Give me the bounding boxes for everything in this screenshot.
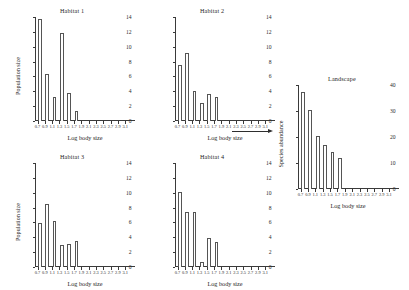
- y-axis-tick: [173, 208, 175, 209]
- y-axis-tick: [173, 222, 175, 223]
- y-axis-tick: [33, 178, 35, 179]
- bar: [308, 110, 312, 189]
- x-axis-tick-label: 1.9: [79, 124, 85, 129]
- panel-title-habitat-1: Habitat 1: [60, 7, 84, 14]
- y-axis-tick-label: 4: [129, 88, 132, 94]
- axis-label-x-landscape: Log body size: [330, 202, 365, 209]
- x-axis-tick-label: 2.3: [357, 192, 363, 197]
- x-axis-tick-label: 0.7: [35, 124, 41, 129]
- y-axis-tick: [173, 237, 175, 238]
- x-axis-tick-label: 1.7: [211, 270, 217, 275]
- y-axis-tick-label: 0: [393, 186, 396, 192]
- x-axis-tick-label: 0.9: [42, 270, 48, 275]
- bar: [316, 136, 320, 189]
- x-axis-tick-label: 1.9: [219, 124, 225, 129]
- y-axis-tick: [33, 32, 35, 33]
- y-axis-tick-label: 12: [126, 29, 132, 35]
- x-axis-tick-label: 0.9: [42, 124, 48, 129]
- panel-habitat-2: Habitat 2 024681012140.70.91.11.31.51.71…: [144, 4, 284, 144]
- y-axis-line: [35, 17, 36, 121]
- y-axis-tick: [296, 111, 298, 112]
- y-axis-tick-label: 2: [129, 103, 132, 109]
- y-axis-tick: [173, 17, 175, 18]
- y-axis-tick: [33, 121, 35, 122]
- y-axis-tick: [173, 32, 175, 33]
- plot-area-habitat-3: 024681012140.70.91.11.31.51.71.92.12.32.…: [35, 163, 135, 267]
- x-axis-tick-label: 0.7: [175, 124, 181, 129]
- y-axis-tick-label: 10: [126, 190, 132, 196]
- y-axis-tick: [33, 62, 35, 63]
- y-axis-tick-label: 2: [129, 249, 132, 255]
- y-axis-tick: [33, 267, 35, 268]
- x-axis-tick-label: 1.1: [189, 124, 195, 129]
- x-axis-tick-label: 2.9: [255, 270, 261, 275]
- x-axis-line: [35, 266, 135, 267]
- plot-area-habitat-4: 024681012140.70.91.11.31.51.71.92.12.32.…: [175, 163, 275, 267]
- bar: [215, 97, 219, 122]
- bar: [323, 145, 327, 189]
- y-axis-tick: [33, 222, 35, 223]
- y-axis-tick: [173, 252, 175, 253]
- x-axis-tick-label: 1.5: [64, 270, 70, 275]
- x-axis-tick-label: 2.9: [115, 124, 121, 129]
- x-axis-tick-label: 1.5: [327, 192, 333, 197]
- y-axis-tick-label: 6: [269, 219, 272, 225]
- x-axis-tick-label: 2.5: [100, 124, 106, 129]
- x-axis-tick-label: 1.1: [189, 270, 195, 275]
- y-axis-tick-label: 6: [129, 219, 132, 225]
- y-axis-tick: [33, 17, 35, 18]
- x-axis-tick-label: 3.1: [262, 270, 268, 275]
- bar: [67, 244, 71, 267]
- y-axis-tick: [33, 47, 35, 48]
- panel-landscape: Landscape Species abundance 0102030400.7…: [268, 72, 409, 217]
- y-axis-tick: [33, 163, 35, 164]
- x-axis-tick-label: 2.3: [233, 270, 239, 275]
- y-axis-tick: [33, 237, 35, 238]
- x-axis-tick-label: 1.3: [320, 192, 326, 197]
- y-axis-tick: [173, 121, 175, 122]
- y-axis-tick: [173, 76, 175, 77]
- y-axis-line: [175, 163, 176, 267]
- axis-label-x-habitat-1: Log body size: [67, 134, 102, 141]
- panel-habitat-1: Habitat 1 Population size 024681012140.7…: [4, 4, 144, 144]
- x-axis-tick-label: 1.7: [71, 124, 77, 129]
- x-axis-tick-label: 2.1: [226, 124, 232, 129]
- x-axis-tick-label: 1.5: [204, 270, 210, 275]
- x-axis-tick-label: 0.9: [305, 192, 311, 197]
- x-axis-tick-label: 0.9: [182, 270, 188, 275]
- x-axis-tick-label: 3.1: [122, 124, 128, 129]
- y-axis-tick-label: 10: [266, 44, 272, 50]
- x-axis-tick-label: 1.3: [57, 270, 63, 275]
- bar: [38, 223, 42, 267]
- bar: [178, 65, 182, 121]
- bar: [75, 111, 79, 121]
- bar: [45, 74, 49, 121]
- panel-title-habitat-4: Habitat 4: [200, 153, 224, 160]
- x-axis-tick-label: 1.7: [335, 192, 341, 197]
- bar: [53, 221, 57, 267]
- y-axis-tick-label: 4: [269, 234, 272, 240]
- y-axis-tick: [33, 193, 35, 194]
- figure-panel-grid: Habitat 1 Population size 024681012140.7…: [0, 0, 409, 290]
- y-axis-line: [175, 17, 176, 121]
- x-axis-tick-label: 3.1: [386, 192, 392, 197]
- bar: [53, 97, 57, 122]
- y-axis-tick: [33, 106, 35, 107]
- y-axis-tick-label: 2: [269, 249, 272, 255]
- x-axis-tick-label: 1.7: [71, 270, 77, 275]
- y-axis-tick: [173, 91, 175, 92]
- bar: [331, 152, 335, 189]
- bar: [67, 93, 71, 121]
- y-axis-tick-label: 0: [129, 264, 132, 270]
- plot-area-landscape: 0102030400.70.91.11.31.51.71.92.12.32.52…: [298, 85, 399, 189]
- y-axis-tick-label: 12: [266, 29, 272, 35]
- y-axis-tick-label: 4: [129, 234, 132, 240]
- y-axis-tick-label: 6: [129, 73, 132, 79]
- bar: [200, 103, 204, 121]
- panel-habitat-3: Habitat 3 Population size 024681012140.7…: [4, 150, 144, 290]
- axis-label-x-habitat-3: Log body size: [67, 280, 102, 287]
- y-axis-tick: [173, 106, 175, 107]
- y-axis-tick: [296, 189, 298, 190]
- bar: [45, 204, 49, 267]
- y-axis-tick: [173, 267, 175, 268]
